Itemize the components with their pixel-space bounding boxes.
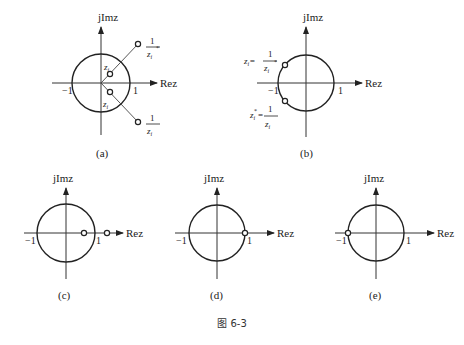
- svg-text:1: 1: [150, 113, 155, 123]
- panel-a: jImz Rez −1 1 zi zi 1 zi * 1 zi (a): [52, 11, 177, 160]
- label-upper-on-circle: zi= 1 zi *: [243, 49, 277, 74]
- real-axis-label: Rez: [160, 77, 177, 89]
- panel-e: jImz Rez −1 1 (e): [335, 172, 454, 302]
- zero-at-one: [242, 230, 247, 235]
- panel-c: jImz Rez −1 1 (c): [24, 172, 143, 302]
- svg-text:zi=: zi=: [243, 56, 255, 67]
- zero-lower-on-circle: [282, 98, 287, 103]
- label-lower-on-circle: zi * = 1 zi: [249, 104, 278, 130]
- zero-inv-z-i-conj: [135, 41, 140, 46]
- tick-pos-one: 1: [406, 235, 411, 246]
- label-z-i-conj: zi: [102, 99, 109, 110]
- real-axis-label: Rez: [437, 227, 454, 239]
- svg-text:zi: zi: [264, 119, 271, 130]
- panel-label-d: (d): [210, 289, 223, 302]
- figure-caption: 图 6-3: [217, 318, 247, 329]
- panel-b: jImz Rez −1 1 zi= 1 zi * zi * = 1 zi (b): [243, 11, 382, 160]
- zero-at-neg-one: [345, 230, 350, 235]
- svg-text:*: *: [254, 108, 257, 114]
- imag-axis-label: jImz: [363, 172, 384, 184]
- zero-z-i-conj: [107, 89, 112, 94]
- tick-neg-one: −1: [336, 235, 347, 246]
- zero-inv-z-i: [135, 119, 140, 124]
- panel-label-c: (c): [58, 289, 71, 302]
- imag-axis-label: jImz: [203, 172, 224, 184]
- zero-inside: [81, 230, 86, 235]
- real-axis-label: Rez: [277, 227, 294, 239]
- tick-pos-one: 1: [133, 85, 138, 96]
- svg-text:1: 1: [268, 104, 273, 114]
- svg-text:zi: zi: [263, 63, 270, 74]
- panel-label-e: (e): [369, 289, 382, 302]
- zero-upper-on-circle: [282, 62, 287, 67]
- label-z-i: zi: [103, 62, 110, 73]
- tick-pos-one: 1: [96, 235, 101, 246]
- label-inv-z-i-conj: 1 zi *: [146, 36, 160, 60]
- tick-neg-one: −1: [176, 235, 187, 246]
- tick-pos-one: 1: [338, 85, 343, 96]
- svg-text:=: =: [258, 110, 263, 120]
- tick-pos-one: 1: [247, 235, 252, 246]
- zero-outside: [104, 230, 109, 235]
- panel-label-a: (a): [96, 147, 109, 160]
- tick-neg-one: −1: [62, 85, 73, 96]
- svg-text:zi: zi: [146, 49, 153, 60]
- svg-text:*: *: [156, 45, 159, 51]
- panel-d: jImz Rez −1 1 (d): [175, 172, 294, 302]
- panel-label-b: (b): [300, 147, 313, 160]
- real-axis-label: Rez: [365, 77, 382, 89]
- real-axis-label: Rez: [126, 227, 143, 239]
- svg-text:1: 1: [268, 49, 273, 59]
- svg-text:zi: zi: [146, 126, 153, 137]
- imag-axis-label: jImz: [97, 11, 118, 23]
- svg-text:*: *: [274, 59, 277, 65]
- imag-axis-label: jImz: [302, 11, 323, 23]
- figure-canvas: jImz Rez −1 1 zi zi 1 zi * 1 zi (a) jImz…: [0, 0, 464, 345]
- label-inv-z-i: 1 zi: [146, 113, 160, 137]
- imag-axis-label: jImz: [52, 172, 73, 184]
- svg-text:1: 1: [150, 36, 155, 46]
- tick-neg-one: −1: [268, 85, 279, 96]
- tick-neg-one: −1: [25, 235, 36, 246]
